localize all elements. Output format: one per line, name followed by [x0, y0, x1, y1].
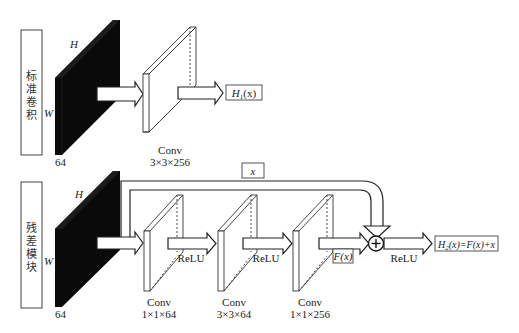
height-label: H [74, 188, 84, 200]
flow-arrow [178, 82, 223, 104]
conv-filter-slab [143, 27, 196, 132]
conv-name: Conv [222, 296, 246, 308]
residual-label-char: 差 [26, 234, 37, 248]
conv-name: Conv [298, 296, 322, 308]
relu-label: ReLU [253, 252, 280, 264]
width-label: W [44, 107, 54, 119]
conv-kernel: 3×3×64 [217, 308, 252, 320]
conv-kernel: 1×1×256 [290, 308, 330, 320]
conv-kernel: 1×1×64 [142, 308, 177, 320]
relu-label: ReLU [178, 252, 205, 264]
width-label: W [44, 255, 54, 267]
residual-label-char: 残 [26, 221, 37, 235]
relu-arrow [384, 233, 432, 254]
conv-kernel: 3×3×256 [150, 156, 190, 168]
depth-label: 64 [55, 156, 67, 168]
height-label: H [69, 38, 79, 50]
skip-x-label: x [250, 165, 256, 177]
output-h1-label: H1(x) [231, 87, 257, 101]
standard-conv-label-char: 积 [26, 109, 37, 122]
skip-connection [121, 181, 390, 240]
relu-arrow [168, 233, 216, 254]
resnet-diagram: 标 准 卷 积 H W 64 Conv 3×3×256 [0, 0, 519, 333]
depth-label: 64 [55, 308, 67, 320]
relu-label: ReLU [391, 252, 418, 264]
residual-label-char: 块 [26, 261, 37, 274]
standard-conv-section: 标 准 卷 积 H W 64 Conv 3×3×256 [21, 20, 262, 168]
standard-conv-label-char: 卷 [26, 95, 37, 109]
relu-arrow [243, 233, 292, 254]
add-node [369, 236, 384, 251]
conv-name: Conv [158, 144, 182, 156]
residual-label-char: 模 [26, 248, 37, 261]
conv-name: Conv [147, 296, 171, 308]
residual-block-section: 残 差 模 块 H W 64 x Conv [21, 163, 498, 320]
standard-conv-label-char: 准 [26, 83, 37, 96]
residual-fx-label: F(x) [333, 250, 353, 263]
standard-conv-label-char: 标 [26, 69, 37, 83]
